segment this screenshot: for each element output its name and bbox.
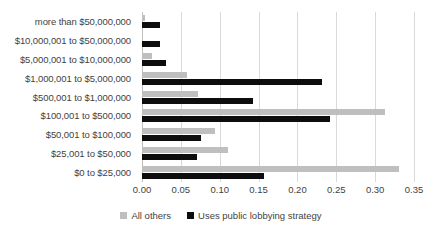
bar-uses-public-lobbying-strategy bbox=[142, 79, 322, 85]
bar-groups bbox=[142, 12, 414, 182]
category-label: $1,000,001 to $5,000,000 bbox=[0, 69, 136, 88]
bar-uses-public-lobbying-strategy bbox=[142, 22, 160, 28]
bar-group bbox=[142, 144, 414, 163]
chart-legend: All othersUses public lobbying strategy bbox=[0, 206, 442, 224]
category-label: $25,001 to $50,000 bbox=[0, 144, 136, 163]
legend-item[interactable]: Uses public lobbying strategy bbox=[187, 210, 322, 221]
x-axis-tick: 0.00 bbox=[133, 184, 152, 195]
bar-all-others bbox=[142, 72, 187, 78]
bar-all-others bbox=[142, 91, 198, 97]
legend-label: All others bbox=[131, 210, 171, 221]
category-axis-labels: more than $50,000,000$10,000,001 to $50,… bbox=[0, 12, 136, 182]
bar-uses-public-lobbying-strategy bbox=[142, 135, 201, 141]
category-label: $100,001 to $500,000 bbox=[0, 106, 136, 125]
x-axis-tick-labels: 0.000.050.100.150.200.250.300.35 bbox=[142, 184, 414, 198]
x-axis-tick: 0.10 bbox=[210, 184, 229, 195]
bar-group bbox=[142, 88, 414, 107]
plot-area bbox=[142, 12, 414, 182]
bar-uses-public-lobbying-strategy bbox=[142, 173, 264, 179]
bar-group bbox=[142, 163, 414, 182]
bar-uses-public-lobbying-strategy bbox=[142, 116, 330, 122]
bar-uses-public-lobbying-strategy bbox=[142, 60, 166, 66]
bar-all-others bbox=[142, 109, 385, 115]
category-label: more than $50,000,000 bbox=[0, 12, 136, 31]
legend-item[interactable]: All others bbox=[120, 210, 171, 221]
bar-uses-public-lobbying-strategy bbox=[142, 98, 253, 104]
x-axis-tick: 0.35 bbox=[405, 184, 424, 195]
gridline bbox=[414, 12, 415, 182]
bar-group bbox=[142, 50, 414, 69]
bar-all-others bbox=[142, 147, 228, 153]
bar-group bbox=[142, 12, 414, 31]
bar-group bbox=[142, 125, 414, 144]
x-axis-tick: 0.05 bbox=[172, 184, 191, 195]
category-label: $5,000,001 to $10,000,000 bbox=[0, 50, 136, 69]
legend-swatch-icon bbox=[120, 212, 127, 219]
category-label: $50,001 to $100,000 bbox=[0, 125, 136, 144]
x-axis-tick: 0.30 bbox=[366, 184, 385, 195]
category-label: $0 to $25,000 bbox=[0, 163, 136, 182]
bar-uses-public-lobbying-strategy bbox=[142, 154, 197, 160]
bar-all-others bbox=[142, 53, 152, 59]
legend-label: Uses public lobbying strategy bbox=[198, 210, 322, 221]
x-axis-tick: 0.15 bbox=[249, 184, 268, 195]
bar-group bbox=[142, 31, 414, 50]
bar-uses-public-lobbying-strategy bbox=[142, 41, 160, 47]
bar-all-others bbox=[142, 166, 399, 172]
category-label: $10,000,001 to $50,000,000 bbox=[0, 31, 136, 50]
bar-chart: more than $50,000,000$10,000,001 to $50,… bbox=[0, 0, 442, 234]
x-axis-tick: 0.25 bbox=[327, 184, 346, 195]
bar-group bbox=[142, 106, 414, 125]
legend-swatch-icon bbox=[187, 212, 194, 219]
bar-all-others bbox=[142, 128, 215, 134]
x-axis-tick: 0.20 bbox=[288, 184, 307, 195]
bar-all-others bbox=[142, 15, 145, 21]
bar-group bbox=[142, 69, 414, 88]
category-label: $500,001 to $1,000,000 bbox=[0, 88, 136, 107]
